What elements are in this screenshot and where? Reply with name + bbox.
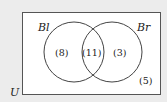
set-br-label: Br <box>136 21 151 34</box>
venn-diagram: Bl Br U (8) (11) (3) (5) <box>0 0 167 102</box>
region-both-count: (11) <box>82 47 102 58</box>
universe-label: U <box>10 86 20 99</box>
region-outside-count: (5) <box>139 75 152 86</box>
region-only-bl-count: (8) <box>55 47 68 58</box>
set-bl-label: Bl <box>37 21 50 34</box>
region-only-br-count: (3) <box>113 47 126 58</box>
